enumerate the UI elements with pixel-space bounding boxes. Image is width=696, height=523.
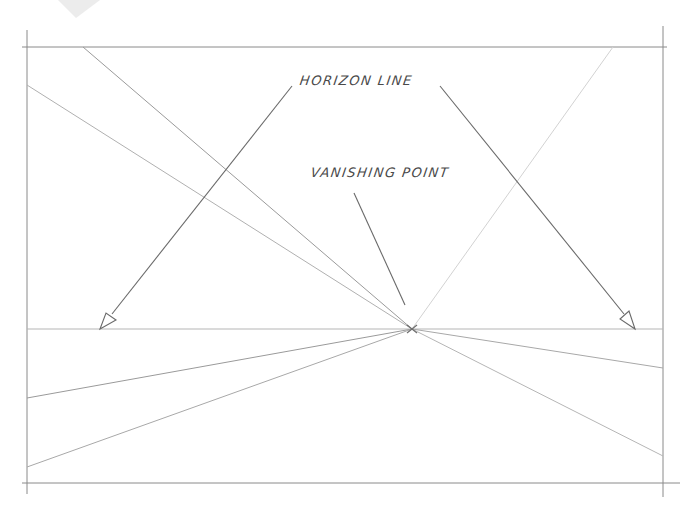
arrowhead-icon — [620, 311, 635, 329]
vanishing-point-pointer — [354, 193, 405, 305]
paper-shadow — [58, 0, 100, 18]
orthogonal-line — [27, 329, 412, 467]
horizon-arrow-left — [100, 86, 292, 329]
orthogonal-line — [27, 329, 412, 398]
orthogonal-line — [83, 47, 412, 329]
vanishing-point-label: VANISHING POINT — [310, 165, 450, 180]
arrowhead-icon — [100, 313, 116, 329]
horizon-arrow-right — [440, 86, 635, 329]
horizon-line-label: HORIZON LINE — [299, 73, 414, 88]
orthogonal-lines — [27, 47, 663, 467]
orthogonal-line — [27, 85, 412, 329]
